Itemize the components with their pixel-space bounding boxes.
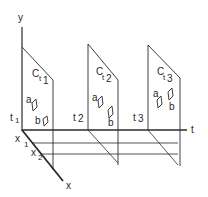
object-b-icon (43, 116, 48, 126)
plane-3-t: t (163, 73, 166, 82)
time-label-3: t (133, 112, 136, 123)
time-sub-1: 1 (15, 116, 20, 125)
x2-subscript: 2 (38, 153, 43, 162)
t-axis-label: t (191, 124, 194, 135)
time-sub-2: 2 (78, 113, 84, 124)
time-label-2: t (73, 112, 76, 123)
object-a-icon (98, 96, 103, 108)
plane-3-a: a (153, 88, 159, 99)
x1-label: x (15, 133, 20, 144)
floor-lines (32, 130, 178, 165)
plane-2-b: b (108, 117, 114, 128)
x-axis-label: x (66, 180, 71, 191)
plane-3-sub: 3 (167, 73, 173, 84)
plane-t3 (148, 45, 180, 166)
plane-1-t: t (39, 74, 42, 83)
plane-t1 (22, 47, 53, 170)
spacetime-diagram: y t x x 1 x 2 C t 1 a b t 1 C t 2 a b t … (0, 0, 208, 197)
plane-2-t: t (102, 73, 105, 82)
plane-1-b: b (35, 115, 41, 126)
x2-label: x (31, 147, 36, 158)
x-axis (22, 130, 63, 181)
y-axis-label: y (18, 12, 23, 23)
x1-subscript: 1 (24, 140, 29, 149)
time-label-1: t (10, 112, 13, 123)
object-b-icon (168, 88, 173, 100)
plane-2-sub: 2 (106, 73, 112, 84)
object-a-icon (32, 99, 37, 111)
plane-1-sub: 1 (43, 75, 49, 86)
plane-1-a: a (26, 94, 32, 105)
plane-2-a: a (92, 92, 98, 103)
plane-3-b: b (169, 101, 175, 112)
time-sub-3: 3 (138, 113, 144, 124)
